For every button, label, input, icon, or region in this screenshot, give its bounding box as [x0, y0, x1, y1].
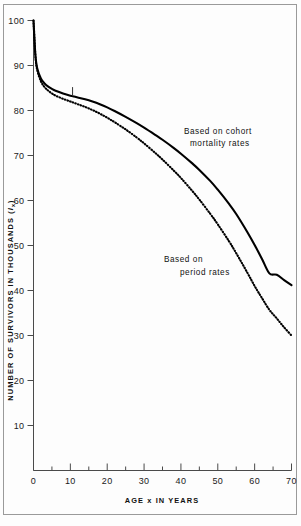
y-tick-label-90: 90 [14, 61, 25, 71]
chart-plot-area: 102030405060708090100 010203040506070 Ba… [0, 0, 301, 526]
x-tick-label-50: 50 [212, 476, 223, 486]
y-tick-label-10: 10 [14, 421, 25, 431]
y-axis-title-main: NUMBER OF SURVIVORS IN THOUSANDS ( [6, 210, 15, 400]
y-tick-label-30: 30 [14, 331, 25, 341]
data-series-group [34, 21, 292, 336]
y-axis-title: NUMBER OF SURVIVORS IN THOUSANDS (lx) [6, 199, 16, 400]
survivorship-chart-figure: 102030405060708090100 010203040506070 Ba… [0, 0, 301, 526]
x-tick-label-0: 0 [31, 476, 36, 486]
y-axis-title-close: ) [6, 199, 15, 203]
y-tick-label-70: 70 [14, 151, 25, 161]
x-tick-label-20: 20 [102, 476, 113, 486]
annotation-period: Based on period rates [164, 255, 230, 277]
x-tick-label-60: 60 [249, 476, 260, 486]
x-tick-label-10: 10 [65, 476, 76, 486]
series-cohort-mortality-line [34, 21, 292, 286]
y-tick-label-40: 40 [14, 286, 25, 296]
y-tick-label-100: 100 [8, 16, 24, 26]
x-tick-label-70: 70 [286, 476, 297, 486]
y-axis-title-group: NUMBER OF SURVIVORS IN THOUSANDS (lx) [6, 199, 16, 400]
x-tick-label-30: 30 [139, 476, 150, 486]
annotation-cohort-line2: mortality rates [190, 139, 250, 148]
x-axis-title: AGE x IN YEARS [125, 496, 199, 505]
y-tick-label-80: 80 [14, 106, 25, 116]
x-axis-minor-ticks [52, 467, 273, 471]
series-period-rates-line [34, 21, 292, 336]
x-tick-label-40: 40 [176, 476, 187, 486]
annotation-cohort-line1: Based on cohort [184, 127, 252, 136]
annotation-cohort: Based on cohort mortality rates [184, 127, 252, 148]
y-tick-label-20: 20 [14, 376, 25, 386]
y-tick-label-50: 50 [14, 241, 25, 251]
annotation-period-line2: period rates [180, 268, 230, 277]
x-axis-ticks: 010203040506070 [31, 464, 297, 486]
annotation-period-line1: Based on [164, 255, 203, 264]
